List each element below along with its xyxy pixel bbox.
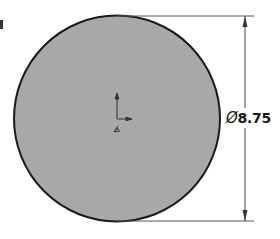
diameter-value: 8.75 <box>238 110 271 126</box>
diameter-symbol: Ø <box>226 109 238 127</box>
arrowhead-bottom-icon <box>243 210 248 221</box>
arrowhead-top-icon <box>243 16 248 27</box>
diameter-dimension-label[interactable]: Ø8.75 <box>225 108 272 128</box>
